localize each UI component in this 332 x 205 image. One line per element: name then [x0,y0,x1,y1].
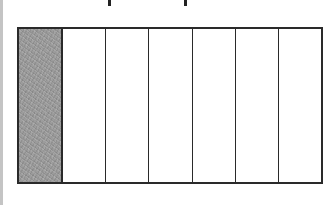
fraction-cell [279,29,321,182]
fraction-cell [236,29,279,182]
fraction-cell [149,29,192,182]
fraction-cell [106,29,149,182]
cropped-title-glyph [108,0,111,6]
fraction-bar [17,27,323,184]
fraction-cell [63,29,106,182]
fraction-cell [193,29,236,182]
fraction-cell-shaded [19,29,63,182]
cropped-title-glyph [184,0,187,6]
left-border-rule [0,0,3,205]
